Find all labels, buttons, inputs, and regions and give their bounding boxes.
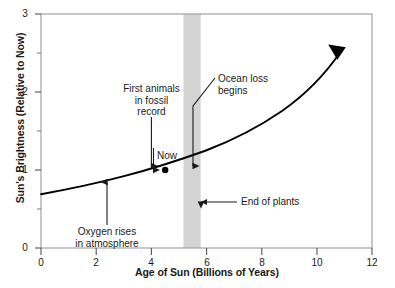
annotation-oxygen-rises: Oxygen rises in atmosphere — [62, 226, 152, 249]
annotation-now: Now — [157, 150, 191, 162]
y-tick-label-0: 0 — [18, 242, 32, 253]
plot-background — [41, 14, 372, 248]
ocean-loss-band — [184, 14, 201, 248]
annotation-end-of-plants: End of plants — [241, 196, 331, 208]
annotation-ocean-loss: Ocean loss begins — [218, 73, 288, 96]
annotation-first-animals: First animals in fossil record — [110, 83, 193, 118]
x-axis-title: Age of Sun (Billions of Years) — [41, 266, 373, 278]
chart-figure: 0 1 2 3 0 2 4 6 8 10 12 Sun's Brightness… — [0, 0, 395, 288]
x-axis-ticks — [41, 248, 372, 255]
now-marker-dot — [162, 167, 168, 173]
sun-brightness-line-chart — [0, 0, 395, 288]
y-axis-minor-ticks — [37, 53, 41, 209]
y-axis-title: Sun's Brightness (Relative to Now) — [14, 2, 26, 234]
